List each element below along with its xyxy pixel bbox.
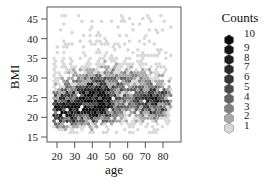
legend-hex-swatch xyxy=(225,45,234,55)
hexbin-cell xyxy=(138,22,141,26)
hexbin-cell xyxy=(169,54,172,58)
legend-hex-swatch xyxy=(225,103,234,113)
hexbin-cell xyxy=(116,25,119,29)
hexbin-cell xyxy=(128,131,131,135)
legend-hex-swatch xyxy=(225,54,234,64)
hexbin-cell xyxy=(115,131,118,135)
y-tick-label: 25 xyxy=(27,92,39,104)
hexbin-cell xyxy=(125,34,128,38)
legend-hex-swatch xyxy=(225,94,234,104)
y-tick-label: 20 xyxy=(27,111,39,123)
hexbin-cell xyxy=(128,56,131,60)
hexbin-cell xyxy=(75,131,78,135)
hexbin-cell xyxy=(149,54,152,58)
hexbin-cell xyxy=(110,19,113,23)
y-tick-label: 30 xyxy=(27,72,39,84)
hexbin-cell xyxy=(82,45,85,49)
legend-label: 1 xyxy=(244,119,250,131)
hexbin-cell xyxy=(102,131,105,135)
hexbin-cell xyxy=(61,14,64,18)
hexbin-cell xyxy=(56,45,59,49)
hexbin-cell xyxy=(64,14,67,18)
legend-hex-swatch xyxy=(225,84,234,94)
hexbin-cell xyxy=(128,39,131,43)
hexbin-cell xyxy=(77,14,80,18)
hexbin-cell xyxy=(126,48,129,52)
x-tick-label: 20 xyxy=(52,150,64,162)
hexbin-cell xyxy=(82,34,85,38)
hexbin-cell xyxy=(146,54,149,58)
legend-title: Counts xyxy=(222,10,259,25)
hexbin-cell xyxy=(62,22,65,26)
hexbin-cell xyxy=(153,42,156,46)
hexbin-cell xyxy=(136,54,139,58)
x-axis-title: age xyxy=(105,162,123,177)
hexbin-cell xyxy=(148,39,151,43)
hexbin-cell xyxy=(148,28,151,32)
hexbin-cell xyxy=(141,17,144,21)
hexbin-cell xyxy=(62,51,65,55)
legend-hex-swatch xyxy=(225,35,234,45)
hexbin-cell xyxy=(131,51,134,55)
hexbin-cell xyxy=(88,34,91,38)
legend-hex-swatch xyxy=(225,74,234,84)
hexbin-cell xyxy=(59,28,62,32)
hexbin-cell xyxy=(79,39,82,43)
hexbin-cell xyxy=(80,19,83,23)
legend-hex-swatch xyxy=(225,123,234,133)
y-tick-label: 35 xyxy=(27,52,39,64)
legend-hex-swatch xyxy=(225,113,234,123)
hexbin-cell xyxy=(118,34,121,38)
hexbin-cell xyxy=(153,54,156,58)
hexbin-cell xyxy=(56,51,59,55)
hexbin-cell xyxy=(148,131,151,135)
hexbin-cell xyxy=(131,131,134,135)
hexbin-cell xyxy=(131,28,134,32)
legend-hex-swatch xyxy=(225,64,234,74)
hexbin-cell xyxy=(100,19,103,23)
x-tick-label: 40 xyxy=(87,150,99,162)
hexbin-cell xyxy=(144,62,147,66)
x-tick-label: 60 xyxy=(122,150,134,162)
x-tick-label: 50 xyxy=(105,150,117,162)
hexbin-cell xyxy=(164,56,167,60)
hexbin-chart: 15202530354045 20304050607080 age BMI Co… xyxy=(0,0,269,184)
hexbin-cell xyxy=(123,128,126,132)
hexbin-cell xyxy=(131,22,134,26)
hexbin-cell xyxy=(70,42,73,46)
y-tick-label: 45 xyxy=(27,13,39,25)
legend-label: 10 xyxy=(244,27,256,39)
hexbin-cell xyxy=(79,56,82,60)
legend: Counts 10987654321 xyxy=(222,10,259,133)
hexbin-cell xyxy=(143,42,146,46)
hexbin-cell xyxy=(164,51,167,55)
hexbin-cell xyxy=(90,19,93,23)
hexbin-cell xyxy=(161,125,164,129)
x-axis: 20304050607080 xyxy=(52,142,170,162)
hexbin-cell xyxy=(163,19,166,23)
hexbin-cell xyxy=(136,128,139,132)
x-tick-label: 80 xyxy=(158,150,170,162)
y-axis: 15202530354045 xyxy=(27,13,47,143)
x-tick-label: 70 xyxy=(140,150,152,162)
hexbin-cell xyxy=(138,39,141,43)
hexbin-cell xyxy=(161,28,164,32)
y-tick-label: 15 xyxy=(27,131,39,143)
y-axis-title: BMI xyxy=(7,65,22,90)
hexbin-cell xyxy=(123,42,126,46)
hexbin-cell xyxy=(136,48,139,52)
hexbin-cell xyxy=(169,25,172,29)
y-tick-label: 40 xyxy=(27,33,39,45)
hexbin-cells xyxy=(52,14,172,135)
hexbin-cell xyxy=(70,31,73,35)
x-tick-label: 30 xyxy=(69,150,81,162)
hexbin-cell xyxy=(159,14,162,18)
hexbin-cell xyxy=(128,17,131,21)
